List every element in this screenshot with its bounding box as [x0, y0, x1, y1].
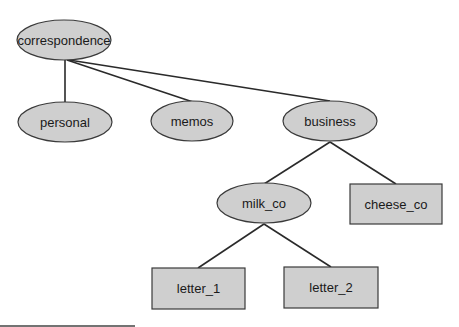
node-label: memos [171, 114, 214, 129]
edge-business-cheese_co [330, 142, 396, 184]
node-business: business [283, 101, 377, 141]
node-label: letter_1 [177, 281, 220, 296]
node-label: milk_co [242, 196, 286, 211]
edge-correspondence-memos [67, 60, 193, 102]
nodes: correspondencepersonalmemosbusinessmilk_… [17, 20, 442, 309]
node-label: cheese_co [365, 197, 428, 212]
edge-milk_co-letter_2 [264, 224, 331, 267]
node-correspondence: correspondence [17, 20, 111, 60]
tree-diagram: correspondencepersonalmemosbusinessmilk_… [0, 0, 459, 327]
node-label: letter_2 [309, 280, 352, 295]
edges [65, 60, 396, 268]
node-letter_1: letter_1 [152, 268, 245, 309]
node-milk_co: milk_co [217, 183, 311, 223]
node-cheese_co: cheese_co [350, 184, 442, 224]
node-letter_2: letter_2 [284, 267, 378, 308]
node-label: personal [40, 115, 90, 130]
node-memos: memos [151, 101, 233, 141]
node-label: business [304, 114, 356, 129]
edge-milk_co-letter_1 [198, 224, 264, 268]
node-personal: personal [18, 102, 112, 142]
edge-correspondence-business [69, 60, 330, 101]
edge-business-milk_co [264, 142, 330, 184]
node-label: correspondence [17, 33, 110, 48]
